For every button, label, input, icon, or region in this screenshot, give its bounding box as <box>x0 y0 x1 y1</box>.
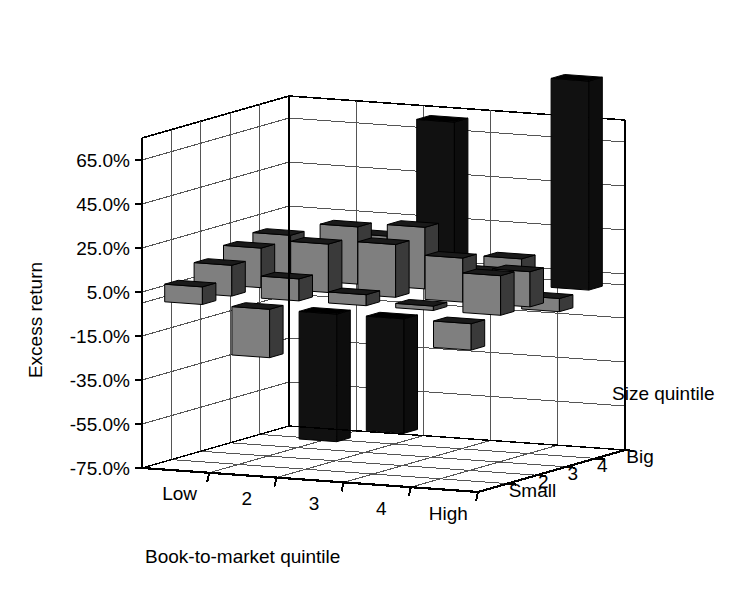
bar-front-face <box>261 276 299 301</box>
x-axis-tick-label: High <box>429 503 468 524</box>
bar <box>261 272 312 301</box>
bar <box>329 288 380 306</box>
bar <box>165 280 216 304</box>
x-axis-title: Book-to-market quintile <box>145 546 340 567</box>
x-axis-tick-label: Low <box>162 483 197 504</box>
bar-front-face <box>551 78 589 290</box>
x-tick-mark <box>342 482 344 491</box>
bar-side-face <box>328 240 342 292</box>
bar-side-face <box>299 275 313 301</box>
y-axis-tick-label: -15.0% <box>70 326 130 347</box>
z-axis-tick-label: 3 <box>568 463 579 484</box>
x-axis-tick-label: 4 <box>376 498 387 519</box>
bar-front-face <box>232 307 270 358</box>
bar-front-face <box>358 242 396 297</box>
y-axis-tick-label: 5.0% <box>87 282 130 303</box>
bar-side-face <box>471 320 485 350</box>
bar <box>299 308 350 442</box>
bar-front-face <box>366 316 404 433</box>
bar <box>366 312 417 433</box>
x-tick-mark <box>476 492 478 501</box>
z-axis-tick-label: Big <box>626 446 653 467</box>
bar-side-face <box>530 268 544 307</box>
y-axis-tick-label: -35.0% <box>70 370 130 391</box>
bar <box>358 238 409 297</box>
bar-side-face <box>501 272 514 316</box>
bar-front-face <box>299 311 337 441</box>
y-axis-tick-label: 25.0% <box>76 238 130 259</box>
bar-side-face <box>337 310 351 442</box>
x-tick-mark <box>409 487 411 496</box>
bar-side-face <box>396 241 410 298</box>
y-axis-tick-label: -55.0% <box>70 414 130 435</box>
bar-side-face <box>232 261 246 296</box>
bar <box>463 269 514 315</box>
z-axis-tick-label: 2 <box>538 471 549 492</box>
bar <box>396 300 447 311</box>
bar-front-face <box>425 255 463 302</box>
bar <box>232 303 283 358</box>
bar-front-face <box>434 321 472 350</box>
y-axis-tick-label: 45.0% <box>76 194 130 215</box>
bar <box>434 317 485 350</box>
y-axis-title: Excess return <box>25 262 46 378</box>
x-axis-tick-label: 2 <box>242 488 253 509</box>
bar-side-face <box>404 315 418 433</box>
chart-container: 65.0%45.0%25.0%5.0%-15.0%-35.0%-55.0%-75… <box>0 0 743 607</box>
bar-front-face <box>463 273 501 315</box>
y-axis-tick-label: -75.0% <box>70 458 130 479</box>
bar-front-face <box>165 284 203 304</box>
x-tick-mark <box>207 473 209 482</box>
x-axis-tick-label: 3 <box>309 493 320 514</box>
bar <box>551 75 602 291</box>
bar-side-face <box>589 77 603 290</box>
z-axis-tick-label: Small <box>509 480 557 501</box>
z-axis-tick-label: 4 <box>597 455 608 476</box>
excess-return-3d-bar-chart: 65.0%45.0%25.0%5.0%-15.0%-35.0%-55.0%-75… <box>0 0 743 607</box>
y-axis-tick-label: 65.0% <box>76 150 130 171</box>
bar-side-face <box>270 305 284 357</box>
x-tick-mark <box>274 478 276 487</box>
z-axis-title: Size quintile <box>612 383 714 404</box>
